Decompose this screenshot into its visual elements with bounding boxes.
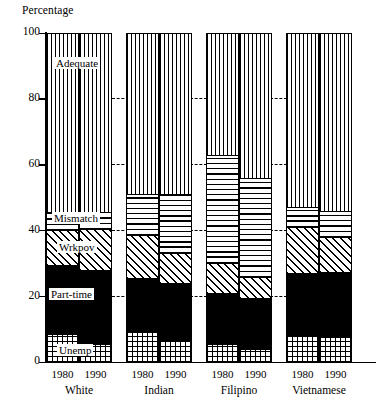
bar-group-vietnamese (286, 33, 352, 362)
segment-parttime (287, 273, 318, 336)
segment-wrkpov (320, 237, 351, 272)
xlabel-group-filipino: Filipino (206, 384, 272, 397)
bar-white-1990[interactable] (79, 33, 112, 362)
bar-filipino-1980[interactable] (206, 33, 239, 362)
segment-unemp (287, 336, 318, 362)
segment-mismatch (287, 207, 318, 227)
segment-parttime (160, 283, 191, 341)
segment-adequate (320, 33, 351, 211)
segment-wrkpov (287, 227, 318, 273)
segment-adequate (160, 33, 191, 194)
bar-vietnamese-1990[interactable] (319, 33, 352, 362)
y-tick-100 (39, 33, 46, 34)
y-axis-title: Percentage (22, 4, 73, 16)
xlabel-group-white: White (46, 384, 112, 397)
inplot-label-wrkpov: Wrkpov (57, 241, 97, 253)
segment-mismatch (320, 211, 351, 237)
bar-vietnamese-1980[interactable] (286, 33, 319, 362)
inplot-label-adequate: Adequate (54, 57, 100, 69)
segment-mismatch (127, 194, 158, 235)
bar-white-1980[interactable] (46, 33, 79, 362)
y-tick-label-60: 60 (0, 158, 40, 170)
segment-mismatch (207, 155, 238, 264)
xlabel-filipino-1990: 1990 (239, 368, 272, 380)
y-tick-label-40: 40 (0, 224, 40, 236)
segment-adequate (240, 33, 271, 178)
segment-unemp (127, 332, 158, 362)
segment-parttime (240, 298, 271, 349)
xlabel-filipino-1980: 1980 (206, 368, 239, 380)
segment-parttime (127, 278, 158, 332)
y-tick-40 (39, 230, 46, 231)
y-tick-60 (39, 164, 46, 165)
bar-group-white (46, 33, 112, 362)
segment-parttime (207, 293, 238, 344)
bar-indian-1990[interactable] (159, 33, 192, 362)
segment-adequate (127, 33, 158, 194)
bar-filipino-1990[interactable] (239, 33, 272, 362)
y-tick-label-80: 80 (0, 92, 40, 104)
segment-adequate (207, 33, 238, 155)
segment-parttime (320, 272, 351, 338)
segment-wrkpov (240, 277, 271, 298)
plot-area (46, 33, 376, 362)
y-tick-20 (39, 296, 46, 297)
segment-mismatch (240, 178, 271, 277)
segment-wrkpov (160, 253, 191, 283)
bar-indian-1980[interactable] (126, 33, 159, 362)
inplot-label-unemp: Unemp (57, 344, 93, 356)
segment-wrkpov (207, 263, 238, 293)
xlabel-group-indian: Indian (126, 384, 192, 397)
segment-unemp (207, 344, 238, 362)
bar-group-filipino (206, 33, 272, 362)
inplot-label-parttime: Part-time (49, 288, 94, 300)
xlabel-white-1990: 1990 (79, 368, 112, 380)
segment-wrkpov (127, 235, 158, 278)
y-tick-80 (39, 98, 46, 99)
y-tick-label-20: 20 (0, 290, 40, 302)
xlabel-vietnamese-1980: 1980 (286, 368, 319, 380)
xlabel-vietnamese-1990: 1990 (319, 368, 352, 380)
xlabel-group-vietnamese: Vietnamese (286, 384, 352, 397)
inplot-label-mismatch: Mismatch (52, 212, 100, 224)
segment-unemp (240, 349, 271, 362)
segment-parttime (80, 270, 111, 344)
y-tick-label-0: 0 (0, 355, 40, 367)
segment-adequate (287, 33, 318, 207)
y-tick-0 (39, 362, 46, 363)
stacked-bar-chart: Percentage 100 80 60 40 20 0 (0, 0, 391, 411)
xlabel-white-1980: 1980 (46, 368, 79, 380)
xlabel-indian-1990: 1990 (159, 368, 192, 380)
bar-group-indian (126, 33, 192, 362)
segment-unemp (160, 341, 191, 362)
segment-mismatch (160, 194, 191, 253)
xlabel-indian-1980: 1980 (126, 368, 159, 380)
y-tick-label-100: 100 (0, 26, 40, 38)
segment-unemp (320, 337, 351, 362)
